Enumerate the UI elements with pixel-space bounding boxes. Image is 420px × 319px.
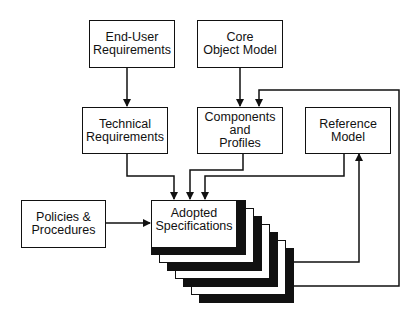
technical-requirements-box: Technical Requirements	[82, 107, 168, 154]
adopted-specifications-box: Adopted Specifications	[151, 200, 237, 248]
end-user-requirements-box: End-User Requirements	[89, 20, 175, 68]
reference-model-box: Reference Model	[305, 107, 391, 154]
components-label-3: Profiles	[205, 137, 276, 150]
reference-label-2: Model	[319, 131, 377, 144]
policies-label-2: Procedures	[32, 224, 96, 237]
adopted-label-2: Specifications	[155, 220, 232, 233]
core-object-label-2: Object Model	[203, 44, 277, 57]
end-user-label-2: Requirements	[93, 44, 171, 57]
reference-label-1: Reference	[319, 118, 377, 131]
core-object-model-box: Core Object Model	[197, 20, 283, 68]
policies-and-procedures-box: Policies & Procedures	[21, 200, 106, 248]
technical-label-2: Requirements	[86, 131, 164, 144]
technical-label-1: Technical	[86, 118, 164, 131]
components-and-profiles-box: Components and Profiles	[197, 107, 283, 154]
